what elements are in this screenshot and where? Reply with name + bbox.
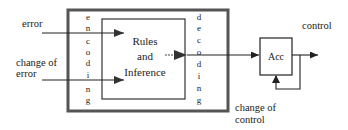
svg-text:e: e xyxy=(197,23,201,33)
accumulator-label: Acc xyxy=(268,51,285,62)
svg-text:n: n xyxy=(86,84,91,94)
control-label: control xyxy=(302,20,332,31)
svg-text:g: g xyxy=(197,95,202,105)
decoding-label: d e c o d i n g xyxy=(197,12,202,105)
feedback-arrowhead-icon xyxy=(272,75,280,83)
svg-text:n: n xyxy=(86,23,91,33)
error-label: error xyxy=(22,18,43,29)
svg-text:n: n xyxy=(197,83,202,93)
svg-text:g: g xyxy=(86,95,91,105)
svg-text:e: e xyxy=(86,12,90,22)
svg-text:d: d xyxy=(86,58,91,68)
svg-text:i: i xyxy=(87,70,90,80)
change-of-error-label-line1: change of xyxy=(16,57,58,68)
svg-text:o: o xyxy=(86,47,91,57)
inference-label: Inference xyxy=(124,66,166,78)
svg-text:c: c xyxy=(86,36,90,46)
svg-text:d: d xyxy=(197,59,202,69)
svg-text:c: c xyxy=(197,35,201,45)
rules-label: Rules xyxy=(132,35,157,47)
and-label: and xyxy=(137,50,153,62)
fuzzy-controller-diagram: error change of error e n c o d i n g Ru… xyxy=(0,0,348,130)
change-of-control-label-line1: change of xyxy=(235,102,277,113)
svg-text:o: o xyxy=(197,47,202,57)
change-of-error-label-line2: error xyxy=(16,68,37,79)
change-of-control-label-line2: control xyxy=(235,114,265,125)
svg-text:i: i xyxy=(198,71,201,81)
encoding-label: e n c o d i n g xyxy=(86,12,91,105)
svg-text:d: d xyxy=(197,12,202,22)
